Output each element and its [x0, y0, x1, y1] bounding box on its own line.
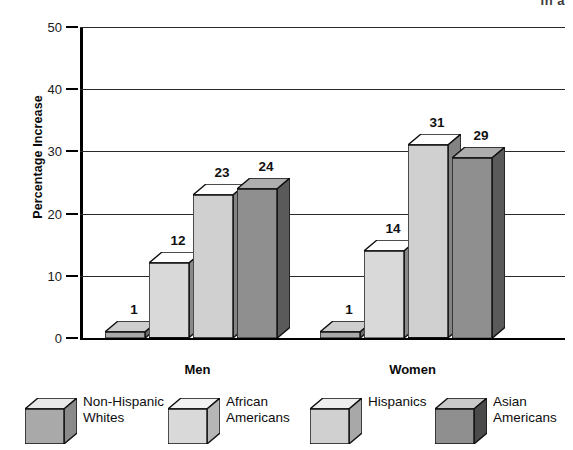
chart-legend: Non-Hispanic WhitesAfrican AmericansHisp…	[0, 394, 573, 450]
y-tick-50	[66, 26, 78, 28]
y-tick-40	[66, 88, 78, 90]
bar-men-asian-americans	[237, 178, 290, 338]
gridline-0	[80, 338, 565, 340]
y-tick-label-30: 30	[22, 144, 62, 159]
bars-layer: 11223241143129	[80, 27, 565, 338]
legend-cube-asian-americans	[435, 398, 487, 444]
y-tick-label-40: 40	[22, 82, 62, 97]
y-tick-label-20: 20	[22, 206, 62, 221]
bar-men-asian-americans-shape	[237, 178, 290, 338]
bar-women-african-americans-value-label: 14	[373, 221, 413, 236]
y-tick-10	[66, 275, 78, 277]
bar-men-asian-americans-value-label: 24	[246, 159, 286, 174]
bar-chart: in a Percentage Increase 50403020100 112…	[0, 0, 573, 450]
legend-label-asian-americans: Asian Americans	[493, 394, 557, 425]
bar-men-african-americans-value-label: 12	[158, 233, 198, 248]
legend-cube-african-americans	[168, 398, 220, 444]
cut-off-caption-fragment: in a	[541, 0, 565, 8]
group-label-women: Women	[363, 362, 463, 377]
legend-cube-hispanics	[310, 398, 362, 444]
bar-women-asian-americans-value-label: 29	[461, 128, 501, 143]
y-tick-20	[66, 213, 78, 215]
legend-label-non-hispanic-whites: Non-Hispanic Whites	[83, 394, 164, 425]
bar-women-non-hispanic-whites-value-label: 1	[329, 302, 369, 317]
y-tick-label-10: 10	[22, 268, 62, 283]
bar-men-hispanics-value-label: 23	[202, 165, 242, 180]
bar-women-asian-americans-shape	[452, 147, 505, 338]
legend-item-non-hispanic-whites[interactable]: Non-Hispanic Whites	[25, 394, 165, 450]
legend-item-asian-americans[interactable]: Asian Americans	[435, 394, 573, 450]
legend-label-african-americans: African Americans	[226, 394, 290, 425]
bar-women-asian-americans	[452, 147, 505, 338]
bar-women-hispanics-value-label: 31	[417, 115, 457, 130]
y-tick-label-0: 0	[22, 331, 62, 346]
legend-item-african-americans[interactable]: African Americans	[168, 394, 308, 450]
legend-item-hispanics[interactable]: Hispanics	[310, 394, 450, 450]
group-label-men: Men	[148, 362, 248, 377]
y-tick-label-50: 50	[22, 20, 62, 35]
legend-label-hispanics: Hispanics	[368, 394, 427, 410]
legend-cube-non-hispanic-whites	[25, 398, 77, 444]
bar-men-non-hispanic-whites-value-label: 1	[114, 302, 154, 317]
y-tick-30	[66, 150, 78, 152]
y-tick-0	[66, 337, 78, 339]
